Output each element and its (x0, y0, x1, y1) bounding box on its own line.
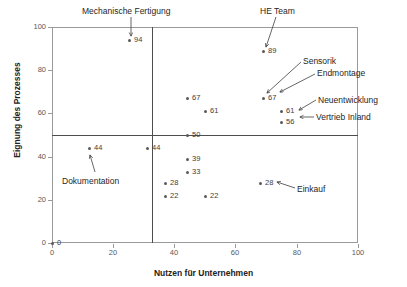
data-point (88, 147, 91, 150)
data-point (280, 121, 283, 124)
data-point-label: 0 (57, 239, 61, 247)
annotation-einkauf: Einkauf (297, 184, 325, 194)
data-point (186, 134, 189, 137)
data-point-label: 44 (94, 144, 102, 152)
data-point (186, 97, 189, 100)
data-point (204, 195, 207, 198)
data-point (186, 171, 189, 174)
scatter-chart: 100 80 60 40 20 0 0 20 40 60 80 100 Nutz… (0, 0, 407, 287)
y-tick-label-20: 20 (22, 196, 46, 204)
data-point-label: 67 (268, 94, 276, 102)
annotation-sensorik: Sensorik (303, 56, 336, 66)
x-tick-label-60: 60 (223, 249, 247, 257)
x-tick-label-100: 100 (346, 249, 370, 257)
reference-line-horizontal (52, 135, 358, 136)
data-point (280, 110, 283, 113)
data-point (146, 147, 149, 150)
y-tick-label-0: 0 (22, 239, 46, 247)
annotation-vertrieb-inland: Vertrieb Inland (316, 112, 371, 122)
annotation-mechanische-fertigung: Mechanische Fertigung (82, 6, 170, 16)
data-point-label: 94 (134, 36, 142, 44)
data-point (164, 182, 167, 185)
y-tick (48, 157, 52, 158)
y-axis-title: Eignung des Prozesses (12, 40, 22, 180)
annotation-endmontage: Endmontage (317, 68, 365, 78)
data-point (164, 195, 167, 198)
data-point-label: 22 (170, 192, 178, 200)
data-point-label: 28 (170, 179, 178, 187)
x-tick-label-40: 40 (162, 249, 186, 257)
x-tick-label-80: 80 (285, 249, 309, 257)
data-point-label: 61 (286, 107, 294, 115)
data-point-label: 33 (192, 168, 200, 176)
data-point (186, 158, 189, 161)
data-point (262, 97, 265, 100)
x-axis-title: Nutzen für Unternehmen (0, 268, 407, 278)
data-point-label: 39 (192, 155, 200, 163)
y-tick (48, 113, 52, 114)
data-point-label: 56 (286, 118, 294, 126)
annotation-dokumentation: Dokumentation (62, 176, 119, 186)
y-tick-label-100: 100 (22, 23, 46, 31)
y-tick-label-80: 80 (22, 66, 46, 74)
data-point (204, 110, 207, 113)
y-tick-label-40: 40 (22, 153, 46, 161)
y-tick (48, 70, 52, 71)
data-point (51, 242, 54, 245)
y-tick (48, 200, 52, 201)
data-point (259, 182, 262, 185)
data-point (128, 39, 131, 42)
data-point-label: 50 (192, 131, 200, 139)
y-tick-label-60: 60 (22, 109, 46, 117)
data-point (262, 50, 265, 53)
data-point-label: 22 (210, 192, 218, 200)
data-point-label: 44 (152, 144, 160, 152)
x-tick-label-20: 20 (101, 249, 125, 257)
annotation-neuentwicklung: Neuentwicklung (318, 95, 378, 105)
data-point-label: 67 (192, 94, 200, 102)
y-tick (48, 27, 52, 28)
data-point-label: 61 (210, 107, 218, 115)
data-point-label: 28 (265, 179, 273, 187)
x-tick-label-0: 0 (40, 249, 64, 257)
data-point-label: 89 (268, 47, 276, 55)
annotation-he-team: HE Team (260, 6, 295, 16)
